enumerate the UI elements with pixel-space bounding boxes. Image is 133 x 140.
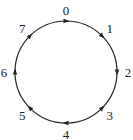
cycle-diagram: 01234567 (0, 0, 133, 139)
node-label: 7 (19, 21, 26, 36)
arrowhead-icon (13, 69, 17, 75)
node-label: 5 (19, 108, 26, 123)
arrowhead-icon (115, 70, 119, 76)
node-label: 1 (107, 21, 114, 36)
node-label: 6 (1, 65, 8, 80)
node-label: 0 (63, 3, 70, 18)
node-label: 2 (125, 65, 132, 80)
node-label: 3 (107, 108, 114, 123)
arrowhead-icon (63, 121, 69, 125)
arrowhead-icon (64, 19, 70, 23)
node-label: 4 (63, 127, 70, 140)
